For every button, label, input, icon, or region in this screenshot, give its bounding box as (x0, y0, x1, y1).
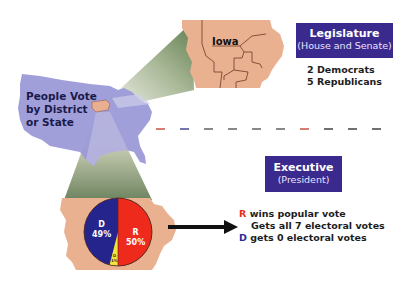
result-r-line: R wins popular vote (239, 208, 385, 220)
arrow-icon (168, 220, 238, 234)
pie-label-d: D 49% (92, 220, 111, 240)
pie-d-value: 49% (92, 230, 111, 240)
executive-subtitle: (President) (265, 174, 342, 186)
r-result-text: wins popular vote (246, 208, 345, 219)
pie-d-letter: D (92, 220, 111, 230)
legislature-box: Legislature (House and Senate) (296, 23, 393, 58)
result-d-line: D gets 0 electoral votes (239, 232, 385, 244)
people-vote-line3: or State (26, 116, 97, 129)
pie-label-r: R 50% (126, 228, 145, 248)
executive-title: Executive (265, 161, 342, 174)
electoral-line: Gets all 7 electoral votes (239, 220, 385, 232)
pie-r-letter: R (126, 228, 145, 238)
executive-results: R wins popular vote Gets all 7 electoral… (239, 208, 385, 244)
legislature-subtitle: (House and Senate) (296, 40, 393, 52)
d-letter: D (239, 232, 247, 243)
pie-r-value: 50% (126, 238, 145, 248)
legislature-counts: 2 Democrats 5 Republicans (307, 64, 382, 88)
pie-o-value: 1% (111, 258, 118, 263)
people-vote-line2: by District (26, 103, 97, 116)
people-vote-label: People Vote by District or State (26, 90, 97, 129)
iowa-map-top (182, 20, 284, 88)
d-result-text: gets 0 electoral votes (247, 232, 367, 243)
democrat-count: 2 Democrats (307, 64, 382, 76)
executive-box: Executive (President) (265, 156, 342, 192)
people-vote-line1: People Vote (26, 90, 97, 103)
republican-count: 5 Republicans (307, 76, 382, 88)
legislature-title: Legislature (296, 27, 393, 40)
pie-label-o: O 1% (111, 253, 118, 263)
state-name-label: Iowa (212, 36, 239, 47)
